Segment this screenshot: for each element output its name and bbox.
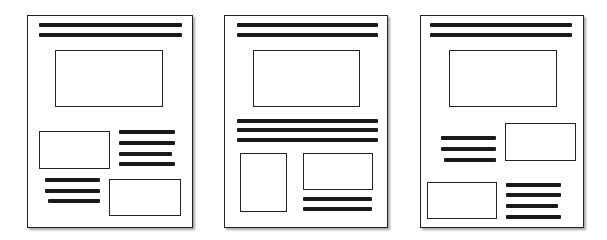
image-placeholder-box xyxy=(303,153,373,190)
text-line-placeholder xyxy=(430,33,572,37)
text-line-placeholder xyxy=(48,199,100,203)
text-line-placeholder xyxy=(506,204,558,208)
text-line-placeholder xyxy=(119,152,172,156)
text-line-placeholder xyxy=(39,23,182,27)
text-line-placeholder xyxy=(237,23,378,27)
image-placeholder-box xyxy=(253,50,360,107)
image-placeholder-box xyxy=(109,179,181,216)
text-line-placeholder xyxy=(237,33,378,37)
text-line-placeholder xyxy=(506,215,561,219)
text-line-placeholder xyxy=(303,197,372,201)
image-placeholder-box xyxy=(55,50,163,107)
image-placeholder-box xyxy=(240,153,287,212)
text-line-placeholder xyxy=(119,130,175,134)
text-line-placeholder xyxy=(444,158,496,162)
text-line-placeholder xyxy=(237,128,378,132)
text-line-placeholder xyxy=(39,33,182,37)
image-placeholder-box xyxy=(39,131,110,169)
image-placeholder-box xyxy=(449,50,557,107)
text-line-placeholder xyxy=(441,147,496,151)
text-line-placeholder xyxy=(303,207,372,211)
text-line-placeholder xyxy=(45,178,100,182)
text-line-placeholder xyxy=(506,193,561,197)
text-line-placeholder xyxy=(237,119,378,123)
text-line-placeholder xyxy=(430,23,572,27)
image-placeholder-box xyxy=(505,123,576,161)
text-line-placeholder xyxy=(441,136,496,140)
text-line-placeholder xyxy=(119,141,175,145)
text-line-placeholder xyxy=(237,138,378,142)
text-line-placeholder xyxy=(45,189,100,193)
text-line-placeholder xyxy=(119,162,175,166)
text-line-placeholder xyxy=(506,183,561,187)
image-placeholder-box xyxy=(427,182,497,219)
